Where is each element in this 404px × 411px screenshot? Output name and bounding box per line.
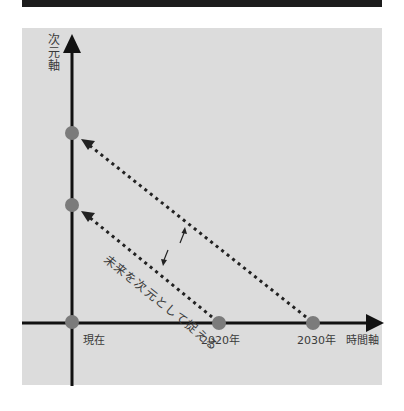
point-2030 — [306, 316, 320, 330]
point-origin — [65, 315, 79, 329]
mapping-line-2020 — [81, 211, 212, 317]
caption-up-arrow-icon — [180, 227, 187, 243]
x-axis-label: 時間軸 — [346, 335, 379, 346]
dashed-arrowhead-icon — [81, 139, 95, 150]
point-dimension-upper — [65, 126, 79, 140]
x-tick-now: 現在 — [83, 335, 105, 346]
dashed-arrowhead-icon — [81, 211, 95, 222]
x-axis-arrowhead-icon — [366, 314, 384, 332]
y-axis-label: 次元軸 — [47, 34, 61, 73]
x-tick-2030: 2030年 — [297, 335, 336, 346]
caption-down-arrow-icon — [161, 250, 168, 266]
y-axis-arrowhead-icon — [63, 34, 81, 53]
point-2020 — [212, 316, 226, 330]
mapping-line-2030 — [81, 139, 306, 317]
point-dimension-lower — [65, 198, 79, 212]
